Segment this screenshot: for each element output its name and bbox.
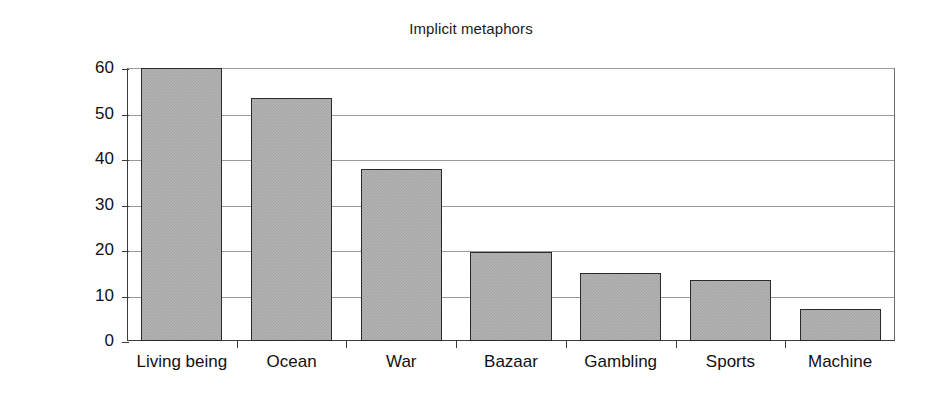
x-tick-label: Ocean — [237, 352, 347, 372]
chart-container: Implicit metaphors Percentage 0102030405… — [0, 0, 942, 415]
x-tick-mark — [785, 341, 786, 348]
y-tick-label: 40 — [58, 149, 114, 169]
bar — [361, 169, 442, 341]
bar — [141, 68, 222, 341]
x-axis-ticks — [127, 341, 895, 349]
y-tick-label: 30 — [58, 195, 114, 215]
bar-series — [127, 68, 895, 341]
y-tick-label: 20 — [58, 240, 114, 260]
y-tick-label: 50 — [58, 104, 114, 124]
x-tick-label: Sports — [676, 352, 786, 372]
x-tick-mark — [456, 341, 457, 348]
bar — [690, 280, 771, 341]
x-tick-mark — [346, 341, 347, 348]
x-tick-mark — [566, 341, 567, 348]
x-tick-label: Bazaar — [456, 352, 566, 372]
bar — [580, 273, 661, 341]
bar — [800, 309, 881, 341]
bar — [470, 252, 551, 341]
x-axis-tick-labels: Living beingOceanWarBazaarGamblingSports… — [127, 352, 895, 382]
bar — [251, 98, 332, 341]
x-tick-mark — [676, 341, 677, 348]
y-tick-label: 0 — [58, 331, 114, 351]
x-tick-label: Gambling — [566, 352, 676, 372]
x-tick-label: War — [346, 352, 456, 372]
x-tick-mark — [237, 341, 238, 348]
x-tick-label: Living being — [127, 352, 237, 372]
y-tick-label: 10 — [58, 286, 114, 306]
chart-title: Implicit metaphors — [0, 20, 942, 37]
y-tick-label: 60 — [58, 58, 114, 78]
x-tick-label: Machine — [785, 352, 895, 372]
